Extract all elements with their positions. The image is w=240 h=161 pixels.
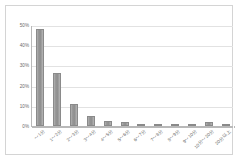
bar[interactable] <box>53 73 61 126</box>
x-axis-tick-label: 5～6分 <box>117 129 131 143</box>
y-axis-tick-label: 50% <box>20 24 29 29</box>
x-axis-tick <box>150 126 151 128</box>
bar[interactable] <box>171 124 179 126</box>
bar-series <box>32 26 233 126</box>
x-axis-tick <box>234 126 235 128</box>
bar-slot <box>167 26 184 126</box>
bar-slot <box>133 26 150 126</box>
x-axis-tick-label: ～1分 <box>35 129 47 141</box>
bar-slot <box>99 26 116 126</box>
bar[interactable] <box>154 124 162 126</box>
bar-slot <box>116 26 133 126</box>
x-axis-tick <box>184 126 185 128</box>
chart-card: 0%10%20%30%40%50% ～1分1～2分2～3分3～4分4～5分5～6… <box>5 5 233 155</box>
y-axis-tick-label: 40% <box>20 44 29 49</box>
x-axis-tick-label: 3～4分 <box>83 129 97 143</box>
bar[interactable] <box>70 104 78 126</box>
x-axis-tick-label: 20分以上 <box>214 129 231 146</box>
bar-slot <box>200 26 217 126</box>
bar-slot <box>66 26 83 126</box>
x-axis-tick <box>133 126 134 128</box>
bar-slot <box>32 26 49 126</box>
x-axis-tick-label: 6～7分 <box>134 129 148 143</box>
x-axis-tick-label: 7～8分 <box>151 129 165 143</box>
x-axis-tick <box>217 126 218 128</box>
x-axis-tick-label: 4～5分 <box>100 129 114 143</box>
bar-slot <box>184 26 201 126</box>
x-axis-tick <box>167 126 168 128</box>
bar[interactable] <box>205 122 213 126</box>
bar-slot <box>49 26 66 126</box>
x-axis-tick <box>83 126 84 128</box>
x-axis-tick <box>32 126 33 128</box>
x-axis-tick-label: 8～9分 <box>167 129 181 143</box>
x-axis-tick <box>116 126 117 128</box>
bar-slot <box>83 26 100 126</box>
x-axis-tick <box>49 126 50 128</box>
y-axis-tick-label: 20% <box>20 84 29 89</box>
x-axis-tick-label: 2～3分 <box>66 129 80 143</box>
x-axis-tick <box>99 126 100 128</box>
bar[interactable] <box>104 121 112 126</box>
x-axis-tick-label: 1～2分 <box>50 129 64 143</box>
bar-slot <box>150 26 167 126</box>
plot-area: 0%10%20%30%40%50% ～1分1～2分2～3分3～4分4～5分5～6… <box>31 26 233 127</box>
bar-slot <box>217 26 234 126</box>
bar[interactable] <box>137 124 145 126</box>
y-axis-tick-label: 10% <box>20 105 29 110</box>
x-axis-tick <box>200 126 201 128</box>
bar[interactable] <box>36 29 44 126</box>
bar[interactable] <box>121 122 129 126</box>
y-axis-tick-label: 0% <box>22 125 29 130</box>
bar[interactable] <box>87 116 95 126</box>
y-axis-tick-label: 30% <box>20 64 29 69</box>
bar[interactable] <box>222 124 230 126</box>
bar[interactable] <box>188 124 196 126</box>
x-axis-tick <box>66 126 67 128</box>
